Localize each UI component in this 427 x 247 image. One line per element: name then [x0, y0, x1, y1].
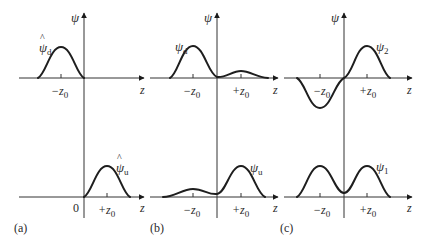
panel-c: ψ z −z0 +z0 ψ2 z −z0 +z0 ψ1 (c)	[280, 10, 412, 235]
psi-axis-label: ψ	[71, 10, 80, 25]
psi-axis-label: ψ	[204, 10, 213, 25]
curve-label-psi-d: ψd	[175, 39, 188, 56]
psi-axis-label: ψ	[331, 10, 340, 25]
panel-label-a: (a)	[14, 221, 27, 235]
tick-label-minus-z0: −z0	[51, 84, 69, 100]
hat-accent: ^	[40, 32, 45, 43]
hat-accent: ^	[117, 152, 122, 163]
tick-label-plus-z0: +z0	[98, 203, 116, 219]
tick-label-minus-z0: −z0	[313, 84, 331, 100]
z-axis-label-top: z	[406, 83, 412, 97]
tick-label-plus-z0: +z0	[359, 84, 377, 100]
z-axis-label-bottom: z	[272, 201, 278, 215]
tick-label-plus-z0: +z0	[232, 84, 250, 100]
origin-label: 0	[73, 201, 79, 215]
tick-label-plus-z0: +z0	[232, 203, 250, 219]
panel-b: ψ z −z0 +z0 ψd z −z0 +z0 ψu (b)	[150, 10, 278, 235]
curve-label-psi-u: ψu	[250, 160, 263, 177]
tick-label-minus-z0: −z0	[183, 203, 201, 219]
curve-label-psi-1: ψ1	[376, 159, 389, 176]
tick-label-plus-z0: +z0	[359, 203, 377, 219]
wavefunction-figure: ψ z −z0 ψd ^ z 0 +z0 ψu ^ (a) ψ z	[0, 0, 427, 247]
panel-label-b: (b)	[150, 221, 164, 235]
z-axis-label-top: z	[139, 83, 145, 97]
panel-label-c: (c)	[280, 221, 293, 235]
z-axis-label-bottom: z	[139, 201, 145, 215]
tick-label-minus-z0: −z0	[313, 203, 331, 219]
z-axis-label-bottom: z	[406, 201, 412, 215]
panel-a: ψ z −z0 ψd ^ z 0 +z0 ψu ^ (a)	[14, 10, 145, 235]
curve-label-psi-2: ψ2	[376, 39, 389, 56]
tick-label-minus-z0: −z0	[183, 84, 201, 100]
z-axis-label-top: z	[272, 83, 278, 97]
